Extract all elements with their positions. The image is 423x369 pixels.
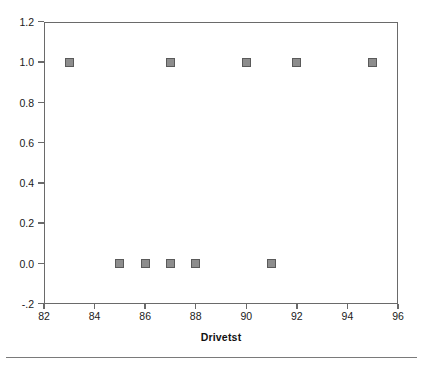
y-axis-tick-label: 0.0 — [19, 257, 34, 271]
x-axis-tick: 84 — [75, 304, 115, 328]
data-point-marker — [292, 58, 301, 67]
scatter-chart-figure: 1.21.00.80.60.40.20.0-.2 828486889092949… — [0, 0, 423, 369]
y-axis-tick-label: 1.2 — [19, 15, 34, 29]
y-axis-tick: 0.4 — [0, 176, 44, 190]
x-axis-title: Drivetst — [44, 331, 398, 343]
data-point-marker — [242, 58, 251, 67]
y-axis-tick: 1.2 — [0, 15, 44, 29]
y-axis-tick-label: 1.0 — [19, 55, 34, 69]
x-axis-tick-mark — [43, 304, 44, 309]
x-axis-tick: 86 — [125, 304, 165, 328]
y-axis-tick-label: 0.8 — [19, 96, 34, 110]
x-axis-tick-label: 94 — [327, 310, 367, 323]
plot-area — [44, 22, 398, 304]
x-axis-tick-label: 84 — [75, 310, 115, 323]
x-axis-tick: 92 — [277, 304, 317, 328]
y-axis-tick: 0.2 — [0, 216, 44, 230]
x-axis-tick-mark — [246, 304, 247, 309]
x-axis-tick: 82 — [24, 304, 64, 328]
x-axis-tick-mark — [94, 304, 95, 309]
y-axis-tick: 0.8 — [0, 96, 44, 110]
y-axis-tick-label: 0.2 — [19, 216, 34, 230]
x-axis-tick-mark — [347, 304, 348, 309]
x-axis-tick-mark — [296, 304, 297, 309]
data-point-marker — [191, 259, 200, 268]
data-point-marker — [267, 259, 276, 268]
x-axis-tick: 96 — [378, 304, 418, 328]
y-axis-tick: 1.0 — [0, 55, 44, 69]
x-axis-tick-label: 92 — [277, 310, 317, 323]
x-axis-tick: 90 — [226, 304, 266, 328]
y-axis-tick: 0.0 — [0, 257, 44, 271]
data-point-marker — [368, 58, 377, 67]
data-point-marker — [115, 259, 124, 268]
x-axis-tick: 88 — [176, 304, 216, 328]
x-axis-tick-label: 90 — [226, 310, 266, 323]
y-axis-tick-label: 0.6 — [19, 136, 34, 150]
y-axis-tick: 0.6 — [0, 136, 44, 150]
x-axis-tick-label: 86 — [125, 310, 165, 323]
horizontal-divider — [6, 357, 417, 358]
data-point-marker — [166, 58, 175, 67]
x-axis-tick-mark — [144, 304, 145, 309]
x-axis-tick-label: 82 — [24, 310, 64, 323]
data-point-marker — [141, 259, 150, 268]
x-axis-tick-label: 88 — [176, 310, 216, 323]
x-axis-tick-mark — [195, 304, 196, 309]
x-axis-tick: 94 — [327, 304, 367, 328]
y-axis-tick-label: 0.4 — [19, 176, 34, 190]
x-axis-tick-mark — [397, 304, 398, 309]
data-point-marker — [65, 58, 74, 67]
x-axis-tick-label: 96 — [378, 310, 418, 323]
data-point-marker — [166, 259, 175, 268]
